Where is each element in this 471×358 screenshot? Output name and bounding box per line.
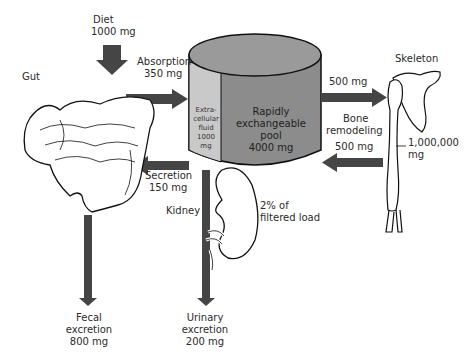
fecal-value: 800 mg [64, 336, 114, 348]
skeleton-label: Skeleton [395, 53, 438, 65]
bone-out-value: 500 mg [329, 76, 367, 88]
bone-remodeling-line1: Bone [343, 113, 368, 125]
urinary-line2: excretion [180, 324, 230, 336]
kidney-note-line1: 2% of [260, 200, 289, 212]
pool-line3: pool [222, 130, 320, 142]
pool-line1: Rapidly [222, 106, 320, 118]
skeleton-unit: mg [408, 149, 424, 161]
absorption-value: 350 mg [144, 68, 182, 80]
bone-remodeling-line2: remodeling [326, 125, 383, 137]
bone-in-value: 500 mg [335, 141, 373, 153]
secretion-value: 150 mg [149, 182, 187, 194]
gut-label: Gut [22, 71, 40, 83]
pool-line2: exchangeable [222, 118, 320, 130]
secretion-label: Secretion [145, 170, 192, 182]
diet-label: Diet [93, 14, 114, 26]
absorption-label: Absorption [137, 56, 191, 68]
urinary-line1: Urinary [180, 312, 230, 324]
kidney-note-line2: filtered load [260, 212, 320, 224]
skeleton-value: 1,000,000 [408, 137, 459, 149]
gut-illustration [24, 97, 154, 212]
ecf-unit: mg [193, 142, 219, 151]
fecal-line1: Fecal [75, 312, 103, 324]
kidney-illustration [206, 168, 258, 270]
fecal-line2: excretion [64, 324, 114, 336]
pool-value: 4000 mg [222, 142, 320, 154]
cylinder-top [189, 34, 321, 76]
bone-in-arrow [322, 153, 383, 172]
ecf-line1: Extra- [193, 106, 219, 115]
ecf-line2: cellular [193, 115, 219, 124]
fecal-arrow [79, 215, 97, 306]
kidney-label: Kidney [166, 205, 200, 217]
bone-out-arrow [322, 88, 387, 107]
ecf-line3: fluid [193, 124, 219, 133]
diet-arrow [96, 45, 128, 75]
urinary-value: 200 mg [180, 336, 230, 348]
ecf-value: 1000 [193, 133, 219, 142]
diet-value: 1000 mg [91, 26, 136, 38]
